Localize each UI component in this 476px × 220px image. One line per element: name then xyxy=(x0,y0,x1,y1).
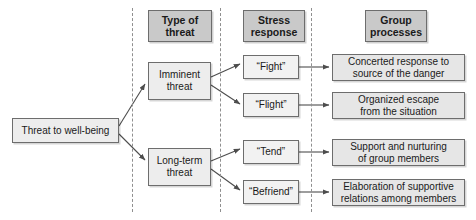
node-threat-to-well-being: Threat to well-being xyxy=(12,118,119,143)
column-divider-1 xyxy=(132,8,133,212)
node-support-nurturing: Support and nurturing of group members xyxy=(332,139,465,166)
header-stress-response: Stress response xyxy=(243,10,305,42)
node-elaboration-supportive: Elaboration of supportive relations amon… xyxy=(332,179,465,206)
column-divider-3 xyxy=(311,8,312,212)
node-organized-escape: Organized escape from the situation xyxy=(332,92,465,119)
header-group-processes: Group processes xyxy=(365,10,427,42)
header-type-of-threat: Type of threat xyxy=(148,10,212,42)
node-long-term-threat: Long-term threat xyxy=(148,148,211,186)
column-divider-2 xyxy=(220,8,221,212)
node-befriend: “Befriend” xyxy=(243,180,299,204)
node-tend: “Tend” xyxy=(243,140,299,164)
node-fight: “Fight” xyxy=(243,55,299,79)
edge-longterm-to-befriend xyxy=(211,169,240,190)
node-concerted-response: Concerted response to source of the dang… xyxy=(332,54,465,81)
node-imminent-threat: Imminent threat xyxy=(148,62,211,100)
edge-imminent-to-fight xyxy=(211,64,240,77)
edge-longterm-to-tend xyxy=(211,149,240,161)
flowchart-diagram: Type of threat Stress response Group pro… xyxy=(0,0,476,220)
edge-imminent-to-flight xyxy=(211,85,240,104)
node-flight: “Flight” xyxy=(243,93,299,117)
